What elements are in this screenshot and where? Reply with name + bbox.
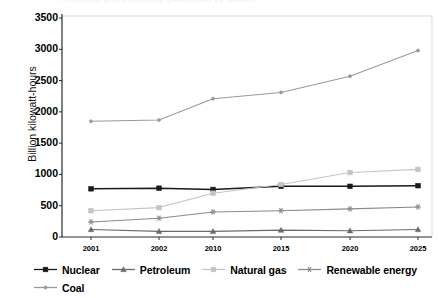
legend-label: Nuclear — [62, 264, 100, 276]
x-tick-label: 2025 — [398, 245, 438, 253]
series-coal — [89, 49, 419, 123]
x-tick-label: 2015 — [261, 245, 301, 253]
legend-marker-icon — [201, 264, 226, 275]
plot-frame — [62, 14, 432, 237]
series-petroleum — [88, 227, 421, 234]
legend-item-coal[interactable]: Coal — [33, 280, 84, 295]
plot-svg — [0, 0, 439, 260]
legend-marker-icon — [33, 264, 58, 275]
legend-marker-icon — [33, 282, 58, 293]
legend-label: Petroleum — [140, 264, 190, 276]
line-chart: Projected U.S. electricity generation by… — [0, 0, 439, 298]
x-tick-label: 2020 — [330, 245, 370, 253]
legend-label: Natural gas — [230, 264, 286, 276]
legend-item-petroleum[interactable]: Petroleum — [111, 262, 190, 277]
series-natural-gas — [89, 167, 421, 213]
x-tick-label: 2001 — [71, 245, 111, 253]
legend-marker-icon — [111, 264, 136, 275]
legend-marker-icon — [297, 264, 322, 275]
legend-label: Renewable energy — [326, 264, 417, 276]
legend-item-natural-gas[interactable]: Natural gas — [201, 262, 286, 277]
legend-label: Coal — [62, 282, 84, 294]
legend-item-renewable-energy[interactable]: Renewable energy — [297, 262, 417, 277]
legend-item-nuclear[interactable]: Nuclear — [33, 262, 100, 277]
x-tick-label: 2002 — [139, 245, 179, 253]
series-renewable-energy — [88, 204, 421, 224]
chart-legend: NuclearPetroleumNatural gasRenewable ene… — [33, 262, 433, 298]
plot-area-wrapper: Billion kilowatt-hours 05001000150020002… — [0, 0, 439, 260]
x-tick-label: 2010 — [193, 245, 233, 253]
